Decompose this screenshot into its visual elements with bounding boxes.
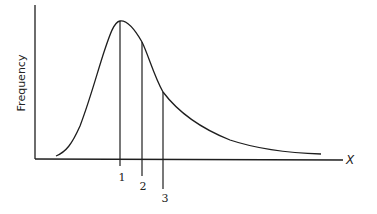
marker-1-label: 1 <box>119 171 126 184</box>
marker-2-label: 2 <box>140 180 147 193</box>
y-axis-label: Frequency <box>15 54 28 111</box>
x-axis <box>35 159 343 160</box>
distribution-curve <box>56 21 321 156</box>
x-axis-label: X <box>345 153 355 167</box>
skewed-distribution-chart: Frequency X 1 2 3 <box>0 0 377 214</box>
marker-3-label: 3 <box>162 192 169 205</box>
